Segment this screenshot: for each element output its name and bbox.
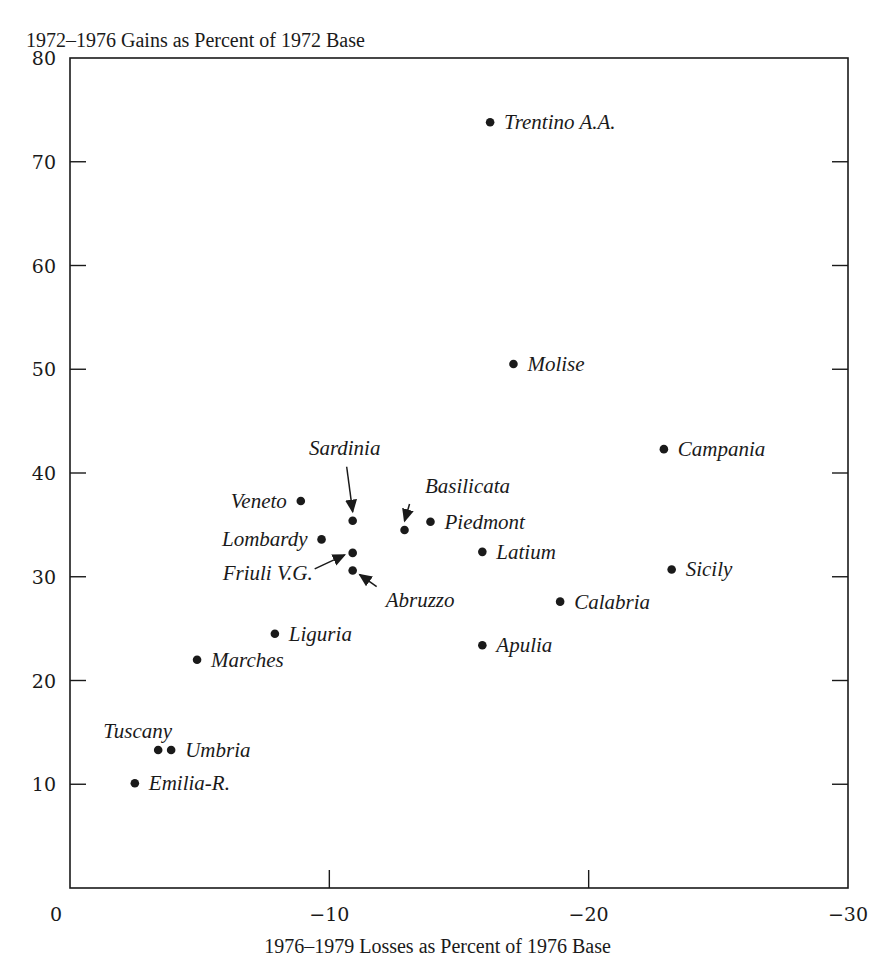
label-arrow xyxy=(347,467,353,512)
data-point xyxy=(660,445,669,454)
data-point xyxy=(478,548,487,557)
point-label: Emilia-R. xyxy=(148,771,230,795)
y-tick-label: 30 xyxy=(32,566,56,588)
point-label: Latium xyxy=(495,540,556,564)
y-tick-label: 50 xyxy=(32,358,56,380)
point-label: Abruzzo xyxy=(384,588,455,612)
scatter-plot: 10203040506070800−10−20−30Trentino A.A.M… xyxy=(0,0,875,966)
point-label: Friuli V.G. xyxy=(222,561,313,585)
x-tick-label: 0 xyxy=(50,903,62,925)
y-tick-label: 20 xyxy=(32,670,56,692)
data-point xyxy=(478,641,487,650)
point-label: Apulia xyxy=(494,633,552,657)
x-tick-label: −30 xyxy=(828,903,868,925)
plot-frame xyxy=(70,58,848,888)
point-label: Sicily xyxy=(686,557,733,581)
data-point xyxy=(131,779,140,788)
data-point xyxy=(193,655,202,664)
x-tick-label: −20 xyxy=(569,903,609,925)
data-point xyxy=(297,497,306,506)
data-point xyxy=(348,516,357,525)
y-tick-label: 60 xyxy=(32,255,56,277)
point-label: Liguria xyxy=(288,622,352,646)
data-point xyxy=(271,630,280,639)
point-label: Sardinia xyxy=(309,436,381,460)
data-point xyxy=(556,597,565,606)
point-label: Umbria xyxy=(185,738,250,762)
data-point xyxy=(400,526,409,535)
point-label: Marches xyxy=(210,648,284,672)
data-point xyxy=(509,360,518,369)
point-label: Campania xyxy=(678,437,766,461)
y-tick-label: 40 xyxy=(32,462,56,484)
point-label: Tuscany xyxy=(103,719,173,743)
y-tick-label: 80 xyxy=(32,47,56,69)
x-tick-label: −10 xyxy=(309,903,349,925)
data-point xyxy=(348,566,357,575)
label-arrow xyxy=(315,555,345,569)
x-axis-title: 1976–1979 Losses as Percent of 1976 Base xyxy=(0,935,875,958)
data-point xyxy=(154,746,163,755)
data-point xyxy=(667,565,676,574)
y-tick-label: 10 xyxy=(32,773,56,795)
point-label: Basilicata xyxy=(425,474,510,498)
y-tick-label: 70 xyxy=(32,151,56,173)
data-point xyxy=(486,118,495,127)
label-arrow xyxy=(360,575,377,587)
point-label: Piedmont xyxy=(443,510,526,534)
data-point xyxy=(167,746,176,755)
point-label: Veneto xyxy=(231,489,287,513)
point-label: Trentino A.A. xyxy=(504,110,615,134)
data-point xyxy=(317,535,326,544)
point-label: Calabria xyxy=(574,590,650,614)
point-label: Lombardy xyxy=(221,527,308,551)
label-arrow xyxy=(405,504,410,521)
point-label: Molise xyxy=(526,352,584,376)
data-point xyxy=(348,549,357,558)
data-point xyxy=(426,517,435,526)
